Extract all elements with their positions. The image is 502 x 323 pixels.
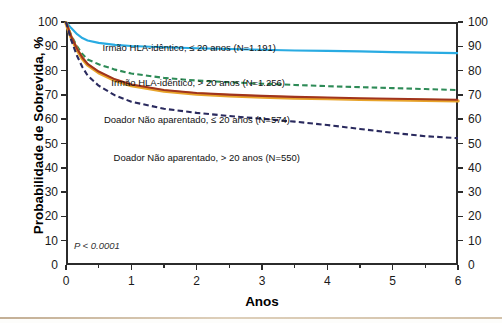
x-tick-minor [425, 265, 427, 268]
x-tick-label-3: 3 [259, 275, 266, 287]
y-tick-label-left-0: 0 [51, 259, 58, 271]
x-tick-major-4 [327, 265, 329, 270]
legend-label-3: Doador Não aparentado, > 20 anos (N=550) [114, 153, 300, 163]
y-tick-label-left-20: 20 [45, 210, 58, 222]
y-tick-label-left-60: 60 [45, 113, 58, 125]
survival-curves [66, 22, 458, 265]
y-tick-right-100 [458, 21, 463, 23]
x-tick-major-0 [65, 265, 67, 270]
y-tick-right-80 [458, 70, 463, 72]
y-tick-label-right-30: 30 [468, 186, 481, 198]
y-tick-label-left-50: 50 [45, 138, 58, 150]
x-tick-major-5 [392, 265, 394, 270]
y-tick-right-90 [458, 46, 463, 48]
bottom-strip [0, 319, 502, 323]
y-tick-label-right-40: 40 [468, 162, 481, 174]
y-tick-label-right-10: 10 [468, 235, 481, 247]
legend-label-0: Irmão HLA-idêntico, ≤ 20 anos (N=1.191) [103, 43, 276, 53]
y-tick-label-left-10: 10 [45, 235, 58, 247]
legend-label-1: Irmão HLA-idêntico, > 20 anos (N=1.256) [111, 78, 285, 88]
y-tick-label-left-70: 70 [45, 89, 58, 101]
x-tick-minor [359, 265, 361, 268]
y-tick-label-right-20: 20 [468, 210, 481, 222]
y-tick-label-right-0: 0 [468, 259, 475, 271]
y-tick-label-left-80: 80 [45, 65, 58, 77]
x-axis-title: Anos [66, 294, 458, 309]
p-value-annotation: P < 0.0001 [74, 240, 120, 251]
y-tick-label-right-60: 60 [468, 113, 481, 125]
plot-area [66, 22, 458, 265]
x-tick-major-6 [457, 265, 459, 270]
y-tick-label-right-50: 50 [468, 138, 481, 150]
x-tick-major-3 [261, 265, 263, 270]
x-tick-major-1 [131, 265, 133, 270]
y-tick-right-40 [458, 167, 463, 169]
y-tick-label-right-80: 80 [468, 65, 481, 77]
survival-chart-figure: Probabilidade de Sobrevida, % Anos 01020… [0, 0, 502, 323]
x-tick-label-4: 4 [324, 275, 331, 287]
x-tick-minor [294, 265, 296, 268]
x-tick-label-5: 5 [389, 275, 396, 287]
y-tick-label-left-30: 30 [45, 186, 58, 198]
y-axis-title: Probabilidade de Sobrevida, % [31, 16, 46, 256]
x-tick-major-2 [196, 265, 198, 270]
x-tick-minor [163, 265, 165, 268]
y-tick-label-left-40: 40 [45, 162, 58, 174]
x-tick-label-0: 0 [63, 275, 70, 287]
y-tick-right-60 [458, 118, 463, 120]
y-tick-right-10 [458, 240, 463, 242]
x-tick-minor [98, 265, 100, 268]
x-tick-label-1: 1 [128, 275, 135, 287]
x-tick-minor [229, 265, 231, 268]
x-tick-label-6: 6 [455, 275, 462, 287]
y-tick-label-right-90: 90 [468, 40, 481, 52]
y-tick-label-left-100: 100 [38, 16, 58, 28]
y-tick-label-right-70: 70 [468, 89, 481, 101]
y-tick-right-30 [458, 191, 463, 193]
legend-label-2: Doador Não aparentado, ≤ 20 anos (N=574) [104, 115, 290, 125]
y-tick-label-right-100: 100 [468, 16, 488, 28]
y-tick-label-left-90: 90 [45, 40, 58, 52]
y-tick-right-50 [458, 143, 463, 145]
y-tick-right-20 [458, 216, 463, 218]
y-tick-right-70 [458, 94, 463, 96]
x-tick-label-2: 2 [193, 275, 200, 287]
